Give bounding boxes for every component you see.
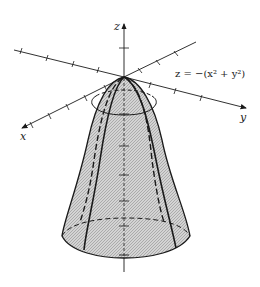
diagram-svg: z y x z = −(x² + y²) <box>0 0 260 287</box>
paraboloid-surface <box>62 77 190 258</box>
z-axis-label: z <box>113 20 120 33</box>
equation-label: z = −(x² + y²) <box>175 68 245 79</box>
y-axis-negative <box>14 50 124 77</box>
paraboloid-diagram: z y x z = −(x² + y²) <box>0 0 260 287</box>
x-axis-label: x <box>20 130 27 143</box>
y-axis-label: y <box>239 111 247 124</box>
